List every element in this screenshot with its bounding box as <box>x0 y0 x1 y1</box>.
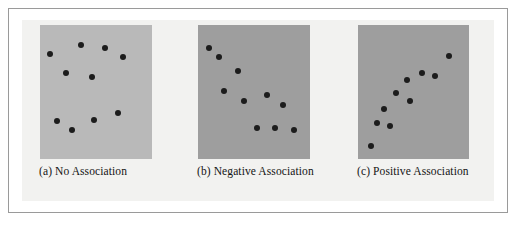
data-point <box>120 54 126 60</box>
data-point <box>235 68 241 74</box>
figure-frame: (a) No Association(b) Negative Associati… <box>8 8 508 213</box>
figure-background: (a) No Association(b) Negative Associati… <box>22 20 494 201</box>
data-point <box>89 74 95 80</box>
data-point <box>254 125 260 131</box>
data-point <box>216 54 222 60</box>
data-point <box>407 98 413 104</box>
scatter-panel-positive-association: (c) Positive Association <box>349 20 501 201</box>
plot-area-no-association <box>40 25 152 159</box>
data-point <box>69 127 75 133</box>
plot-area-negative-association <box>198 25 310 159</box>
data-point <box>368 143 374 149</box>
panel-caption-no-association: (a) No Association <box>39 164 191 179</box>
data-point <box>102 45 108 51</box>
data-point <box>91 117 97 123</box>
data-point <box>393 90 399 96</box>
data-point <box>280 102 286 108</box>
data-point <box>78 42 84 48</box>
panel-caption-negative-association: (b) Negative Association <box>197 164 349 179</box>
data-point <box>221 88 227 94</box>
plot-area-positive-association <box>358 25 469 159</box>
data-point <box>264 92 270 98</box>
data-point <box>115 110 121 116</box>
data-point <box>63 70 69 76</box>
data-point <box>206 45 212 51</box>
data-point <box>241 98 247 104</box>
data-point <box>432 73 438 79</box>
data-point <box>419 70 425 76</box>
data-point <box>54 118 60 124</box>
data-point <box>47 51 53 57</box>
data-point <box>387 123 393 129</box>
scatter-panel-negative-association: (b) Negative Association <box>189 20 341 201</box>
data-point <box>374 120 380 126</box>
data-point <box>272 125 278 131</box>
data-point <box>381 106 387 112</box>
panel-caption-positive-association: (c) Positive Association <box>357 164 509 179</box>
data-point <box>291 127 297 133</box>
scatterplot-panels: (a) No Association(b) Negative Associati… <box>22 20 494 201</box>
scatter-panel-no-association: (a) No Association <box>31 20 183 201</box>
data-point <box>404 77 410 83</box>
data-point <box>446 53 452 59</box>
